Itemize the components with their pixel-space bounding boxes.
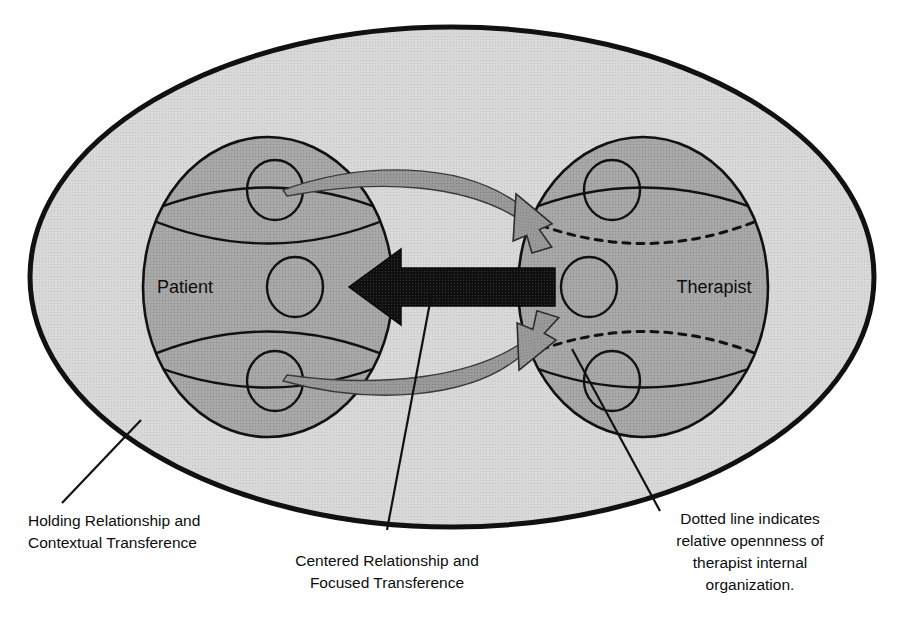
therapist-label: Therapist xyxy=(676,277,751,297)
leader-line-holding xyxy=(62,420,141,503)
caption-dotted-line-3: therapist internal xyxy=(693,554,808,571)
caption-centered-relationship: Centered Relationship and Focused Transf… xyxy=(295,552,479,591)
caption-dotted-line-1: Dotted line indicates xyxy=(680,510,820,527)
caption-holding-line-2: Contextual Transference xyxy=(28,534,197,551)
caption-dotted-line-note: Dotted line indicates relative opennness… xyxy=(676,510,824,593)
patient-label: Patient xyxy=(157,277,213,297)
caption-holding-relationship: Holding Relationship and Contextual Tran… xyxy=(28,512,200,551)
caption-dotted-line-2: relative opennness of xyxy=(676,532,824,549)
caption-dotted-line-4: organization. xyxy=(706,576,795,593)
diagram-root: Patient Therapist xyxy=(0,0,901,627)
caption-centered-line-2: Focused Transference xyxy=(310,574,464,591)
caption-holding-line-1: Holding Relationship and xyxy=(28,512,200,529)
relationship-diagram-canvas: Patient Therapist xyxy=(0,0,901,627)
caption-centered-line-1: Centered Relationship and xyxy=(295,552,479,569)
